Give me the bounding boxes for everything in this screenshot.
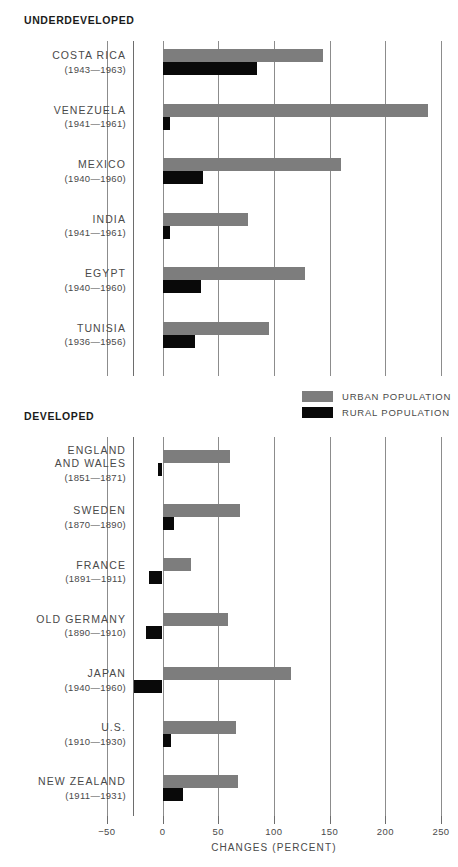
bar-rural-3 xyxy=(163,226,171,239)
row-label-years: (1890—1910) xyxy=(6,626,126,640)
row-label-years: (1940—1960) xyxy=(6,172,126,186)
tick-mark-50 xyxy=(218,816,219,824)
bar-urban-5 xyxy=(163,721,237,734)
row-label-name: COSTA RICA xyxy=(6,49,126,63)
row-label-venezuela: VENEZUELA(1941—1961) xyxy=(6,104,126,131)
bar-urban-5 xyxy=(163,322,270,335)
gridline-100 xyxy=(274,437,275,816)
bar-rural-0 xyxy=(158,463,162,476)
gridline-250 xyxy=(441,41,442,376)
tick-label--50: −50 xyxy=(98,826,115,837)
tick-mark--50 xyxy=(107,816,108,824)
row-label-name: FRANCE xyxy=(6,559,126,573)
row-label-india: INDIA(1941—1961) xyxy=(6,213,126,240)
bar-urban-0 xyxy=(163,450,231,463)
category-axis-0 xyxy=(133,41,134,376)
tick-mark-250 xyxy=(441,816,442,824)
row-label-years: (1911—1931) xyxy=(6,789,126,803)
population-change-chart: UNDERDEVELOPEDCOSTA RICA(1943—1963)VENEZ… xyxy=(0,0,458,867)
chart-legend: URBAN POPULATIONRURAL POPULATION xyxy=(302,390,451,422)
bar-rural-6 xyxy=(163,788,183,801)
category-axis-1 xyxy=(133,437,134,816)
tick-label-150: 150 xyxy=(321,826,338,837)
row-label-old-germany: OLD GERMANY(1890—1910) xyxy=(6,613,126,640)
tick-mark-150 xyxy=(330,816,331,824)
tick-mark-100 xyxy=(274,816,275,824)
row-label-name: NEW ZEALAND xyxy=(6,775,126,789)
row-label-name: AND WALES xyxy=(6,457,126,471)
tick-label-200: 200 xyxy=(377,826,394,837)
x-axis-title: CHANGES (PERCENT) xyxy=(211,842,336,853)
row-label-years: (1851—1871) xyxy=(6,471,126,485)
gridline-0 xyxy=(163,437,164,816)
bar-rural-5 xyxy=(163,734,172,747)
tick-mark-200 xyxy=(385,816,386,824)
row-label-years: (1940—1960) xyxy=(6,281,126,295)
row-label-mexico: MEXICO(1940—1960) xyxy=(6,158,126,185)
bar-urban-1 xyxy=(163,504,241,517)
row-label-france: FRANCE(1891—1911) xyxy=(6,559,126,586)
bar-urban-6 xyxy=(163,775,239,788)
bar-urban-4 xyxy=(163,667,291,680)
bar-urban-2 xyxy=(163,158,341,171)
bar-rural-0 xyxy=(163,62,258,75)
row-label-name: OLD GERMANY xyxy=(6,613,126,627)
row-label-years: (1941—1961) xyxy=(6,117,126,131)
legend-row-1: RURAL POPULATION xyxy=(302,406,451,419)
tick-label-0: 0 xyxy=(160,826,166,837)
row-label-name: JAPAN xyxy=(6,667,126,681)
bar-rural-1 xyxy=(163,117,171,130)
legend-label: URBAN POPULATION xyxy=(342,391,451,402)
legend-label: RURAL POPULATION xyxy=(342,407,450,418)
row-label-name: TUNISIA xyxy=(6,322,126,336)
row-label-name: EGYPT xyxy=(6,267,126,281)
section-heading-developed: DEVELOPED xyxy=(24,410,94,422)
row-label-name: U.S. xyxy=(6,721,126,735)
section-heading-underdeveloped: UNDERDEVELOPED xyxy=(24,14,135,26)
row-label-years: (1943—1963) xyxy=(6,63,126,77)
bar-rural-4 xyxy=(163,280,202,293)
row-label-costa-rica: COSTA RICA(1943—1963) xyxy=(6,49,126,76)
bar-rural-2 xyxy=(163,171,203,184)
tick-label-100: 100 xyxy=(265,826,282,837)
bar-urban-3 xyxy=(163,213,249,226)
legend-row-0: URBAN POPULATION xyxy=(302,390,451,403)
row-label-name: SWEDEN xyxy=(6,504,126,518)
legend-swatch-rural xyxy=(302,407,333,418)
row-label-u-s: U.S.(1910—1930) xyxy=(6,721,126,748)
legend-swatch-urban xyxy=(302,391,333,402)
row-label-years: (1870—1890) xyxy=(6,518,126,532)
bar-urban-1 xyxy=(163,104,428,117)
row-label-years: (1891—1911) xyxy=(6,572,126,586)
bar-urban-3 xyxy=(163,613,229,626)
row-label-years: (1910—1930) xyxy=(6,735,126,749)
gridline-150 xyxy=(330,437,331,816)
row-label-name: INDIA xyxy=(6,213,126,227)
tick-label-50: 50 xyxy=(213,826,224,837)
row-label-name: MEXICO xyxy=(6,158,126,172)
bar-rural-3 xyxy=(146,626,163,639)
tick-mark-0 xyxy=(163,816,164,824)
gridline-200 xyxy=(385,437,386,816)
bar-rural-5 xyxy=(163,335,195,348)
bar-rural-4 xyxy=(134,680,163,693)
row-label-years: (1941—1961) xyxy=(6,226,126,240)
bar-rural-1 xyxy=(163,517,174,530)
row-label-years: (1936—1956) xyxy=(6,335,126,349)
gridline-200 xyxy=(385,41,386,376)
bar-rural-2 xyxy=(149,571,162,584)
gridline-250 xyxy=(441,437,442,816)
gridline-150 xyxy=(330,41,331,376)
row-label-sweden: SWEDEN(1870—1890) xyxy=(6,504,126,531)
tick-label-250: 250 xyxy=(432,826,449,837)
bar-urban-2 xyxy=(163,558,192,571)
row-label-japan: JAPAN(1940—1960) xyxy=(6,667,126,694)
row-label-england-and-wales: ENGLANDAND WALES(1851—1871) xyxy=(6,444,126,485)
row-label-egypt: EGYPT(1940—1960) xyxy=(6,267,126,294)
bar-urban-4 xyxy=(163,267,306,280)
row-label-new-zealand: NEW ZEALAND(1911—1931) xyxy=(6,775,126,802)
row-label-name: ENGLAND xyxy=(6,444,126,458)
gridline-100 xyxy=(274,41,275,376)
bar-urban-0 xyxy=(163,49,323,62)
gridline-50 xyxy=(218,437,219,816)
